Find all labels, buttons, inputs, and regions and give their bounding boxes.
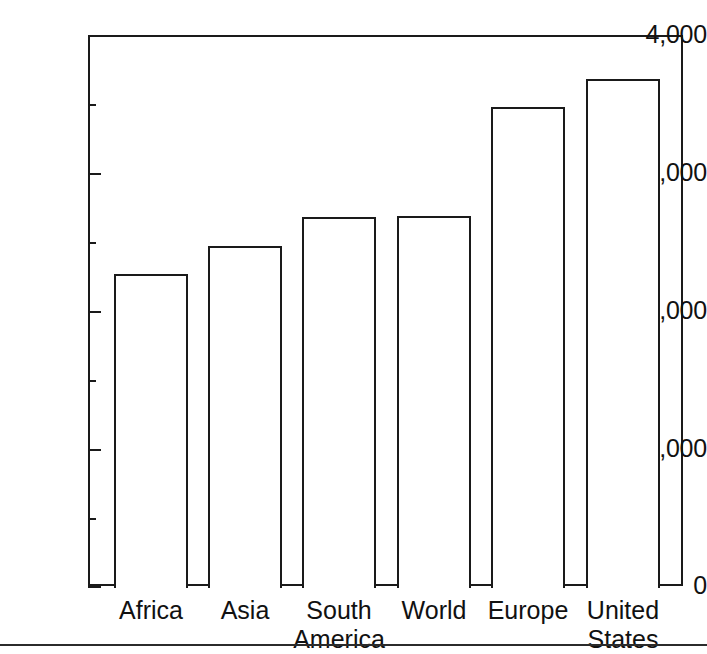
bar-europe: [491, 107, 565, 588]
bar-world: [397, 216, 471, 588]
y-axis-label-4000: 4,000: [631, 22, 707, 47]
x-axis-label-europe: Europe: [481, 596, 575, 625]
bar-united-states: [586, 79, 660, 588]
y-axis-tick-1000: [88, 449, 101, 451]
figure-bottom-rule: [0, 644, 707, 646]
y-axis-tick-0: [88, 586, 101, 588]
y-axis-tick-4000: [88, 35, 101, 37]
y-axis-minor-tick-500: [88, 518, 96, 520]
y-axis-tick-3000: [88, 173, 101, 175]
bar-chart-figure: 4,000 3,000 2,000 1,000 0 Africa Asia So…: [0, 0, 707, 654]
bar-south-america: [302, 217, 376, 588]
y-axis-minor-tick-2500: [88, 242, 96, 244]
x-axis-label-asia: Asia: [198, 596, 292, 625]
x-axis-label-africa: Africa: [104, 596, 198, 625]
x-axis-label-world: World: [387, 596, 481, 625]
y-axis-tick-2000: [88, 311, 101, 313]
y-axis-minor-tick-3500: [88, 104, 96, 106]
y-axis-minor-tick-1500: [88, 380, 96, 382]
bar-asia: [208, 246, 282, 588]
bar-africa: [114, 274, 188, 588]
